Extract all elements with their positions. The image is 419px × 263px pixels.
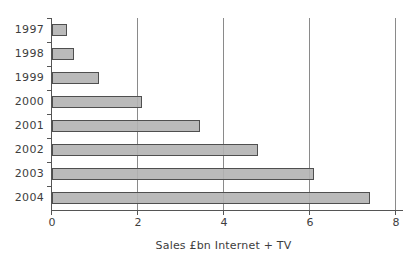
bar-2001 bbox=[52, 120, 200, 132]
gridline-2 bbox=[137, 18, 138, 210]
y-axis-label-1998: 1998 bbox=[10, 42, 44, 66]
y-axis-tick bbox=[47, 138, 51, 139]
y-axis-label-2004: 2004 bbox=[10, 186, 44, 210]
plot-area bbox=[51, 18, 396, 211]
y-axis-label-1999: 1999 bbox=[10, 66, 44, 90]
gridline-6 bbox=[309, 18, 310, 210]
x-axis-label-0: 0 bbox=[49, 216, 56, 229]
bar-2003 bbox=[52, 168, 314, 180]
x-axis-tick bbox=[309, 211, 310, 215]
y-axis-tick bbox=[47, 90, 51, 91]
y-axis-label-2002: 2002 bbox=[10, 138, 44, 162]
y-axis-tick bbox=[47, 18, 51, 19]
y-axis-tick bbox=[47, 42, 51, 43]
gridline-8 bbox=[395, 18, 396, 210]
y-axis-tick bbox=[47, 66, 51, 67]
bar-chart: Sales £bn Internet + TV 1997199819992000… bbox=[0, 0, 419, 263]
y-axis-tick bbox=[47, 114, 51, 115]
bar-1998 bbox=[52, 48, 74, 60]
x-axis-tick bbox=[223, 211, 224, 215]
x-axis-label-8: 8 bbox=[393, 216, 400, 229]
x-axis-label-6: 6 bbox=[307, 216, 314, 229]
bar-1997 bbox=[52, 24, 67, 36]
x-axis-tick bbox=[137, 211, 138, 215]
x-axis-title: Sales £bn Internet + TV bbox=[51, 239, 396, 252]
x-axis-line-extension bbox=[396, 210, 403, 211]
y-axis-label-2003: 2003 bbox=[10, 162, 44, 186]
x-axis-tick bbox=[51, 211, 52, 215]
x-axis-label-4: 4 bbox=[221, 216, 228, 229]
bar-1999 bbox=[52, 72, 99, 84]
y-axis-tick bbox=[47, 186, 51, 187]
bar-2000 bbox=[52, 96, 142, 108]
bar-2002 bbox=[52, 144, 258, 156]
y-axis-tick bbox=[47, 162, 51, 163]
y-axis-label-1997: 1997 bbox=[10, 18, 44, 42]
gridline-4 bbox=[223, 18, 224, 210]
y-axis-label-2000: 2000 bbox=[10, 90, 44, 114]
x-axis-tick bbox=[395, 211, 396, 215]
bar-2004 bbox=[52, 192, 370, 204]
x-axis-label-2: 2 bbox=[135, 216, 142, 229]
y-axis-label-2001: 2001 bbox=[10, 114, 44, 138]
